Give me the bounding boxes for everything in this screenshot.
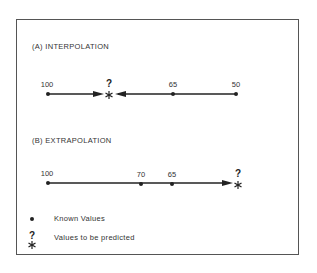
known-dot-icon — [139, 182, 143, 186]
known-dot-icon — [170, 182, 174, 186]
legend-known-dot-icon — [30, 217, 34, 221]
panel-b-arrows — [46, 180, 242, 189]
predicted-star-icon — [235, 181, 242, 189]
known-dot-icon — [234, 92, 238, 96]
arrowhead-left-icon — [115, 91, 126, 97]
known-dot-icon — [46, 92, 50, 96]
diagram-graphics — [0, 0, 317, 273]
arrowhead-right-icon — [222, 180, 233, 186]
legend-predicted-star-icon — [29, 241, 36, 249]
panel-a-arrows — [46, 91, 238, 99]
known-dot-icon — [46, 181, 50, 185]
known-dot-icon — [171, 92, 175, 96]
predicted-star-icon — [106, 91, 113, 99]
arrowhead-right-icon — [93, 91, 104, 97]
